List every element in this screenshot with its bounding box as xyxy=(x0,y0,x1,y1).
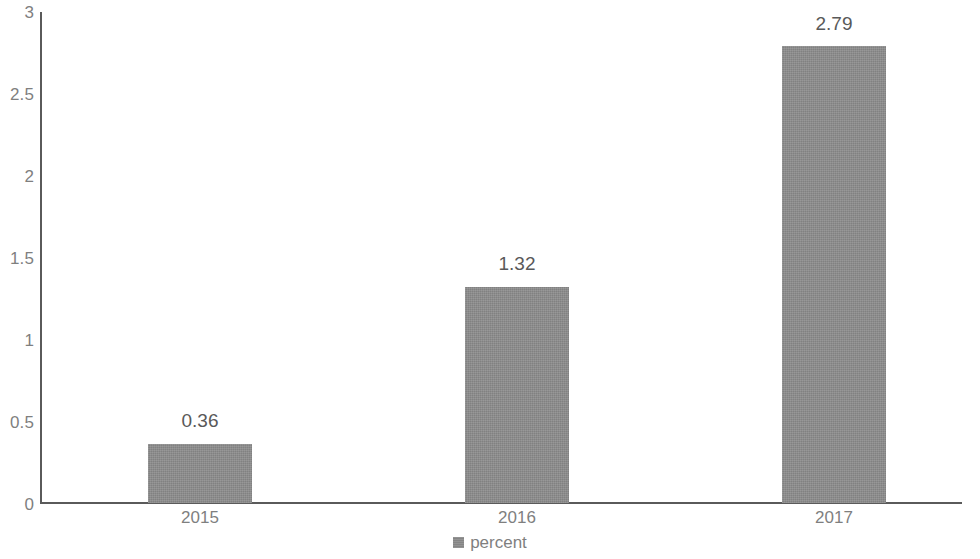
x-tick-label-2016: 2016 xyxy=(465,508,569,527)
bar-chart: 3 2.5 2 1.5 1 0.5 0 0.36 1.32 2.79 2015 … xyxy=(0,0,980,559)
y-tick-label-0-5: 0.5 xyxy=(0,414,34,431)
y-tick-label-0: 0 xyxy=(0,496,34,513)
y-tick-label-2-5: 2.5 xyxy=(0,86,34,103)
data-label-2017: 2.79 xyxy=(782,14,886,33)
bar-2017 xyxy=(782,46,886,503)
legend-label-percent: percent xyxy=(470,533,527,552)
x-tick-label-2015: 2015 xyxy=(148,508,252,527)
bar-2016 xyxy=(465,287,569,503)
data-label-2015: 0.36 xyxy=(148,411,252,430)
y-axis-line xyxy=(40,12,42,504)
y-tick-label-1-5: 1.5 xyxy=(0,250,34,267)
chart-legend: percent xyxy=(0,533,980,552)
data-label-2016: 1.32 xyxy=(465,254,569,273)
y-tick-label-1: 1 xyxy=(0,332,34,349)
bar-2015 xyxy=(148,444,252,503)
y-axis-tick-labels: 3 2.5 2 1.5 1 0.5 0 xyxy=(0,0,34,559)
legend-swatch-icon xyxy=(453,537,464,548)
y-tick-label-3: 3 xyxy=(0,4,34,21)
y-tick-label-2: 2 xyxy=(0,168,34,185)
x-tick-label-2017: 2017 xyxy=(782,508,886,527)
